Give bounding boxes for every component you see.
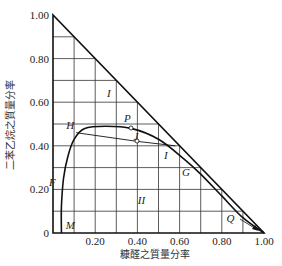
label-m: M: [65, 219, 76, 231]
tie-line: [76, 133, 175, 146]
x-tick-label: 0.20: [86, 235, 106, 247]
label-ii: II: [137, 194, 147, 206]
label-i: I: [106, 87, 112, 99]
y-tick-label: 0.60: [30, 96, 50, 108]
y-tick-labels: 00.200.400.600.801.00: [30, 9, 50, 239]
y-tick-label: 0.80: [30, 53, 50, 65]
x-tick-label: 0.40: [128, 235, 148, 247]
y-tick-label: 0.20: [30, 183, 50, 195]
x-tick-labels: 0.200.400.600.801.00: [86, 235, 275, 247]
label-h: H: [65, 119, 75, 131]
point-p-marker: [129, 126, 133, 130]
phase-diagram: 00.200.400.600.801.00 0.200.400.600.801.…: [0, 0, 282, 266]
x-axis-title: 糠醛之質量分率: [120, 248, 190, 260]
x-tick-label: 0.80: [212, 235, 232, 247]
label-q: Q: [226, 212, 234, 224]
x-tick-label: 0.60: [170, 235, 190, 247]
x-tick-label: 1.00: [254, 235, 274, 247]
point-labels: IIIIHPJGFMQ: [48, 87, 234, 230]
label-p: P: [123, 112, 131, 124]
grid-lines: [53, 37, 243, 233]
y-axis-title: 二苯乙烷之質量分率: [4, 80, 16, 170]
y-tick-label: 0.40: [30, 140, 50, 152]
label-i: I: [163, 149, 169, 161]
y-tick-label: 1.00: [30, 9, 50, 21]
label-g: G: [182, 166, 190, 178]
y-tick-label: 0: [44, 227, 50, 239]
label-f: F: [48, 176, 56, 188]
